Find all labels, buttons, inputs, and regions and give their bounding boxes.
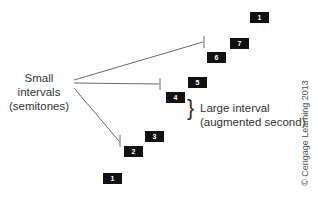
note-box-degree-2: 2 (124, 146, 143, 157)
note-box-degree-octave: 1 (250, 12, 269, 23)
note-box-degree-4: 4 (166, 92, 185, 103)
brace-icon: } (187, 95, 194, 121)
small-intervals-line2: (semitones) (4, 99, 74, 113)
note-box-degree-1: 1 (103, 173, 122, 184)
large-interval-line2: (augmented second) (200, 115, 305, 129)
large-interval-label: Large interval (augmented second) (200, 101, 305, 129)
note-box-degree-5: 5 (188, 77, 207, 88)
small-intervals-label: Small intervals (semitones) (4, 71, 74, 113)
copyright-text: © Cengage Learning 2013 (300, 80, 310, 186)
note-box-degree-6: 6 (207, 52, 226, 63)
small-intervals-line1: Small intervals (4, 71, 74, 99)
note-box-degree-7: 7 (230, 38, 249, 49)
large-interval-line1: Large interval (200, 101, 305, 115)
note-box-degree-3: 3 (145, 131, 164, 142)
